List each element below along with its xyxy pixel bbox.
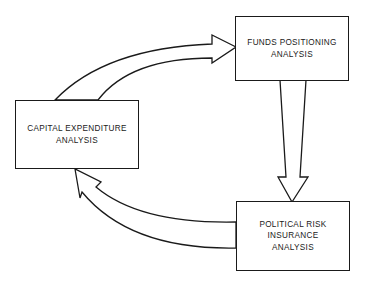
node-label-line: FUNDS POSITIONING — [247, 37, 336, 48]
diagram-canvas: FUNDS POSITIONING ANALYSIS POLITICAL RIS… — [0, 0, 365, 287]
node-label-line: ANALYSIS — [247, 49, 336, 60]
node-label-line: INSURANCE — [259, 230, 326, 241]
node-political-risk: POLITICAL RISK INSURANCE ANALYSIS — [236, 201, 350, 271]
arrow-capital-to-funds — [55, 35, 236, 100]
node-label-line: ANALYSIS — [27, 135, 126, 146]
node-funds-positioning: FUNDS POSITIONING ANALYSIS — [235, 16, 349, 81]
node-label-line: CAPITAL EXPENDITURE — [27, 123, 126, 134]
arrow-funds-to-political — [278, 80, 308, 202]
node-capital-expenditure: CAPITAL EXPENDITURE ANALYSIS — [15, 100, 139, 169]
node-label-line: ANALYSIS — [259, 242, 326, 253]
arrow-political-to-capital — [75, 169, 236, 248]
node-label-line: POLITICAL RISK — [259, 219, 326, 230]
